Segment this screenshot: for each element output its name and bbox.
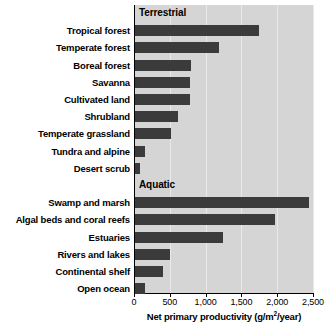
section-header-terrestrial: Terrestrial <box>139 7 186 18</box>
bar <box>135 163 140 174</box>
category-label: Continental shelf <box>0 263 130 280</box>
x-tick-label-1500: 1,500 <box>230 297 252 307</box>
category-label: Temperate grassland <box>0 125 130 142</box>
category-label: Boreal forest <box>0 57 130 74</box>
npp-bar-chart: 05001,0001,5002,0002,500 Tropical forest… <box>0 0 328 333</box>
bar <box>135 128 171 139</box>
category-label: Tropical forest <box>0 22 130 39</box>
x-tick-label-2500: 2,500 <box>302 297 324 307</box>
bar-row: Estuaries <box>0 229 328 246</box>
x-tick-label-500: 500 <box>162 297 177 307</box>
bar <box>135 94 190 105</box>
category-label: Swamp and marsh <box>0 194 130 211</box>
category-label: Temperate forest <box>0 39 130 56</box>
bar-row: Temperate grassland <box>0 125 328 142</box>
bar-row: Shrubland <box>0 108 328 125</box>
x-axis-title-tail: /year) <box>277 311 301 322</box>
bar-row: Open ocean <box>0 280 328 297</box>
bar <box>135 197 309 208</box>
bar <box>135 283 145 294</box>
bar <box>135 42 219 53</box>
section-header-aquatic: Aquatic <box>139 179 175 190</box>
category-label: Cultivated land <box>0 91 130 108</box>
category-label: Estuaries <box>0 229 130 246</box>
bar-row: Temperate forest <box>0 39 328 56</box>
bar <box>135 146 145 157</box>
bar <box>135 25 259 36</box>
bar-row: Cultivated land <box>0 91 328 108</box>
category-label: Algal beds and coral reefs <box>0 211 130 228</box>
bar-row: Desert scrub <box>0 160 328 177</box>
x-axis-title: Net primary productivity (g/m2/year) <box>134 311 314 322</box>
bar-row: Tropical forest <box>0 22 328 39</box>
bar-row: Swamp and marsh <box>0 194 328 211</box>
bar <box>135 266 163 277</box>
bar <box>135 111 178 122</box>
bar-row: Savanna <box>0 74 328 91</box>
bar <box>135 249 170 260</box>
x-tick-label-2000: 2,000 <box>266 297 288 307</box>
category-label: Rivers and lakes <box>0 246 130 263</box>
bar-row: Rivers and lakes <box>0 246 328 263</box>
bar <box>135 232 223 243</box>
bar <box>135 77 190 88</box>
category-label: Desert scrub <box>0 160 130 177</box>
category-label: Tundra and alpine <box>0 143 130 160</box>
category-label: Open ocean <box>0 280 130 297</box>
x-axis-title-main: Net primary productivity (g/m <box>147 311 274 322</box>
bar <box>135 214 275 225</box>
bar-row: Boreal forest <box>0 57 328 74</box>
x-tick-label-1000: 1,000 <box>195 297 217 307</box>
bar-row: Algal beds and coral reefs <box>0 211 328 228</box>
category-label: Shrubland <box>0 108 130 125</box>
x-tick-label-0: 0 <box>132 297 137 307</box>
bar-row: Tundra and alpine <box>0 143 328 160</box>
bar-row: Continental shelf <box>0 263 328 280</box>
bar <box>135 60 191 71</box>
category-label: Savanna <box>0 74 130 91</box>
